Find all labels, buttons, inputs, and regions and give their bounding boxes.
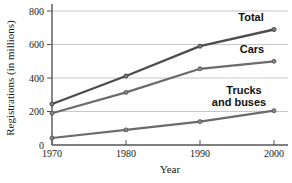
y-tick-marks [47, 11, 52, 112]
series-trucks-point-2000 [272, 109, 276, 113]
series-trucks-point-1970 [50, 136, 54, 140]
x-axis-title: Year [160, 163, 181, 175]
y-tick-label-200: 200 [29, 106, 44, 117]
chart-canvas: 800 600 400 200 0 1970 1980 1990 2000 Ye… [0, 0, 292, 183]
series-trucks-point-1980 [124, 128, 128, 132]
series-label-cars: Cars [240, 43, 264, 55]
y-axis-title: Registrations (in millions) [4, 20, 17, 136]
series-label-trucks-line1: Trucks [226, 84, 261, 96]
x-tick-label-1980: 1980 [116, 148, 136, 159]
series-trucks-and-buses [50, 109, 276, 140]
registrations-line-chart: 800 600 400 200 0 1970 1980 1990 2000 Ye… [0, 0, 292, 183]
y-tick-label-800: 800 [29, 6, 44, 17]
series-trucks-line [52, 111, 274, 138]
series-total-point-2000 [272, 27, 276, 31]
x-tick-label-1970: 1970 [42, 148, 62, 159]
series-cars-point-1980 [124, 90, 128, 94]
series-cars-point-2000 [272, 59, 276, 63]
x-tick-label-1990: 1990 [190, 148, 210, 159]
series-label-total: Total [238, 11, 263, 23]
series-cars-point-1990 [198, 67, 202, 71]
x-tick-label-2000: 2000 [264, 148, 284, 159]
series-label-trucks-line2: and buses [212, 96, 266, 108]
series-total-point-1990 [198, 44, 202, 48]
series-total-point-1980 [124, 74, 128, 78]
series-trucks-point-1990 [198, 120, 202, 124]
y-tick-label-400: 400 [29, 73, 44, 84]
series-cars-point-1970 [50, 111, 54, 115]
x-tick-marks [52, 140, 274, 145]
y-tick-label-600: 600 [29, 39, 44, 50]
series-total-point-1970 [50, 102, 54, 106]
